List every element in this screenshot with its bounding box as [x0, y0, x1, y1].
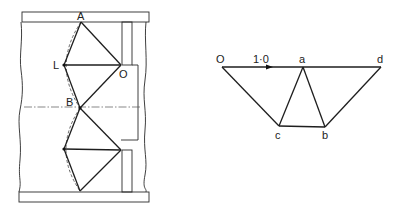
label-A: A	[77, 10, 85, 22]
edge-b-d	[325, 67, 381, 127]
link-AO	[81, 22, 121, 65]
link-O2-D	[80, 150, 121, 191]
edge-c-b	[279, 126, 325, 127]
left-wall	[19, 22, 22, 192]
arrow-icon	[266, 65, 273, 70]
edge-c-a	[279, 67, 303, 126]
bottom-fixed-bar	[19, 192, 149, 202]
top-post	[122, 22, 132, 65]
label-B: B	[66, 96, 73, 108]
label-L: L	[53, 59, 59, 71]
label-O: O	[119, 68, 128, 80]
edge-O-c	[222, 67, 279, 126]
link-OB	[80, 65, 121, 108]
mechanism-figure: A L O B	[19, 10, 149, 202]
link-B-L2	[64, 108, 80, 149]
joint-L2	[62, 147, 65, 150]
label-a: a	[299, 53, 306, 65]
bottom-post	[122, 150, 132, 192]
label-scale: 1·0	[253, 53, 269, 65]
velocity-diagram: O 1·0 a d c b	[216, 53, 383, 141]
label-O: O	[216, 53, 225, 65]
link-AL	[64, 22, 81, 65]
diagram-canvas: A L O B O 1·0 a d c b	[0, 0, 400, 217]
top-fixed-bar	[22, 12, 149, 22]
label-b: b	[322, 129, 328, 141]
joint-B	[78, 106, 81, 109]
right-wall	[144, 22, 146, 192]
link-B-O2	[80, 108, 121, 150]
link-L2-D	[64, 149, 80, 191]
label-c: c	[275, 129, 281, 141]
link-L2-O2	[64, 149, 121, 150]
edge-a-b	[303, 67, 325, 127]
joint-L	[62, 63, 65, 66]
label-d: d	[377, 53, 383, 65]
